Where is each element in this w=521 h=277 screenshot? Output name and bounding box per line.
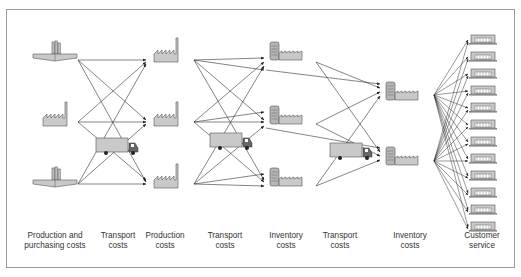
supplier-refinery-icon <box>33 41 77 61</box>
plant-factory-icon <box>154 164 178 188</box>
warehouse-icon <box>270 106 302 124</box>
store-icon <box>469 69 497 79</box>
store-icon <box>469 86 497 96</box>
store-icon <box>469 137 497 147</box>
supplier-refinery-icon <box>33 167 77 187</box>
store-icon <box>469 205 497 215</box>
stage-label-transport-2: Transport costs <box>208 231 243 251</box>
store-icon <box>469 154 497 164</box>
distribution-center-icon <box>386 82 418 100</box>
warehouse-icon <box>270 42 302 60</box>
plant-factory-icon <box>154 102 178 126</box>
store-icon <box>469 103 497 113</box>
stage-label-inventory-1: Inventory costs <box>269 231 303 251</box>
stage-label-customer-service: Customer service <box>464 231 500 251</box>
truck-icon <box>210 133 252 150</box>
edges-dcs-to-customers <box>434 40 468 229</box>
store-icon <box>469 52 497 62</box>
store-icon <box>469 120 497 130</box>
truck-icon <box>96 138 138 155</box>
edges-plants-to-warehouses <box>194 58 264 186</box>
edges-suppliers-to-plants <box>78 60 146 184</box>
store-icon <box>469 35 497 45</box>
customer-stores <box>469 35 497 232</box>
stage-label-transport-3: Transport costs <box>323 231 358 251</box>
store-icon <box>469 171 497 181</box>
stage-label-inventory-2: Inventory costs <box>393 231 427 251</box>
stage-label-transport-1: Transport costs <box>101 231 136 251</box>
distribution-center-icon <box>386 147 418 165</box>
supplier-factory-icon <box>43 102 67 126</box>
warehouse-icon <box>270 168 302 186</box>
stage-label-production: Production costs <box>145 231 184 251</box>
plant-factory-icon <box>154 38 178 62</box>
store-icon <box>469 188 497 198</box>
stage-label-production-purchasing: Production and purchasing costs <box>24 231 85 251</box>
